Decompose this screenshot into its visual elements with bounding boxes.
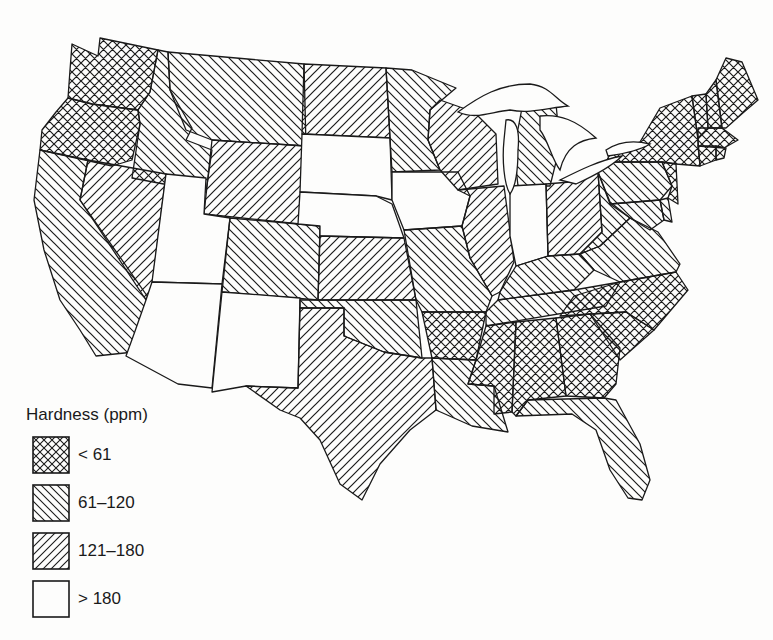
legend-label: 121–180: [78, 541, 144, 561]
state-maine: [716, 58, 758, 128]
legend-label: 61–120: [78, 493, 135, 513]
state-rhode-island: [716, 146, 726, 160]
slash-hatch-swatch-icon: [32, 532, 70, 570]
state-florida: [516, 398, 650, 500]
state-massachusetts: [698, 128, 738, 148]
state-new-mexico: [212, 292, 300, 392]
legend-item-121-180: 121–180: [20, 527, 200, 575]
legend-label: < 61: [78, 445, 112, 465]
legend-label: > 180: [78, 589, 121, 609]
state-wyoming: [204, 140, 306, 224]
state-arkansas: [422, 312, 486, 360]
state-new-york: [604, 96, 700, 166]
legend-item-gt180: > 180: [20, 575, 200, 623]
state-pennsylvania: [598, 162, 672, 204]
legend-item-61-120: 61–120: [20, 479, 200, 527]
legend-item-lt61: < 61: [20, 431, 200, 479]
state-kansas: [318, 236, 416, 300]
legend: Hardness (ppm) < 61 61–120: [20, 405, 200, 623]
state-north-dakota: [302, 64, 390, 138]
state-connecticut: [698, 146, 716, 166]
legend-title: Hardness (ppm): [26, 405, 200, 425]
crosshatch-swatch-icon: [32, 436, 70, 474]
backslash-hatch-swatch-icon: [32, 484, 70, 522]
state-south-dakota: [300, 134, 392, 200]
lake-michigan: [503, 120, 518, 194]
state-indiana: [510, 184, 548, 266]
state-colorado: [222, 218, 320, 300]
blank-swatch-icon: [32, 580, 70, 618]
